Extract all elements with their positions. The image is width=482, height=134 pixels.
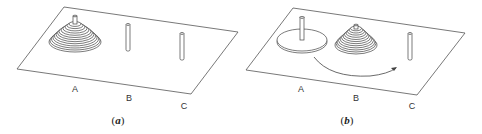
peg-label-b: B [353, 93, 359, 103]
peg-c [180, 33, 184, 60]
caption-a: (a) [112, 114, 125, 127]
hanoi-diagram: A B C (a) [0, 0, 482, 134]
panel-a: A B C (a) [17, 7, 238, 127]
disk-stack-a [49, 22, 101, 52]
disk-stack-b [335, 26, 377, 54]
peg-label-c: C [181, 101, 188, 111]
peg-a [73, 15, 77, 24]
peg-label-c: C [409, 101, 416, 111]
peg-a [300, 17, 304, 40]
move-arrow [314, 57, 397, 76]
peg-label-b: B [126, 93, 132, 103]
peg-label-a: A [72, 84, 78, 94]
peg-b [126, 24, 130, 51]
panel-b: A B C (b) [246, 8, 465, 127]
caption-b: (b) [341, 114, 354, 127]
peg-b [354, 24, 358, 29]
peg-label-a: A [298, 84, 304, 94]
peg-c [408, 33, 412, 60]
